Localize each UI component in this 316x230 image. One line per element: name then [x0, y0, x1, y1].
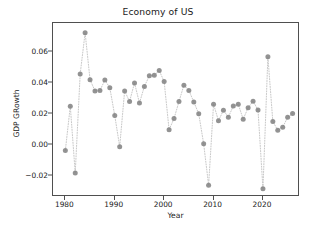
data-point: [92, 88, 97, 93]
data-point: [112, 113, 117, 118]
chart-figure: Economy of US GDP GRowth Year −0.020.000…: [0, 0, 316, 230]
data-point: [88, 77, 93, 82]
data-point: [191, 99, 196, 104]
data-point: [63, 148, 68, 153]
x-axis-tick-label: 1980: [55, 200, 74, 209]
data-point: [157, 68, 162, 73]
data-point: [107, 85, 112, 90]
data-point: [275, 128, 280, 133]
data-point: [211, 102, 216, 107]
y-axis-tick-label: −0.02: [8, 171, 48, 180]
data-point: [68, 104, 73, 109]
data-point: [162, 79, 167, 84]
data-point: [260, 186, 265, 191]
y-axis-tick-label: 0.00: [8, 139, 48, 148]
x-axis-tick-label: 2000: [154, 200, 173, 209]
y-axis-tick-label: 0.04: [8, 77, 48, 86]
data-point: [132, 80, 137, 85]
data-point: [196, 111, 201, 116]
data-point: [186, 88, 191, 93]
data-point: [142, 84, 147, 89]
data-point: [137, 101, 142, 106]
data-point: [78, 72, 83, 77]
data-point: [216, 118, 221, 123]
data-point: [102, 78, 107, 83]
x-axis-tick-label: 2010: [203, 200, 222, 209]
data-point: [181, 83, 186, 88]
data-point: [231, 103, 236, 108]
plot-svg: [53, 23, 300, 197]
data-point: [176, 99, 181, 104]
y-axis-tick-label: 0.06: [8, 46, 48, 55]
data-point: [201, 141, 206, 146]
plot-area: [52, 22, 299, 196]
data-point: [226, 115, 231, 120]
data-point: [83, 30, 88, 35]
y-axis-tick-label: 0.02: [8, 108, 48, 117]
data-point: [152, 73, 157, 78]
data-point: [270, 119, 275, 124]
data-point: [285, 115, 290, 120]
data-point: [206, 183, 211, 188]
data-point: [172, 116, 177, 121]
x-axis-tick-label: 2020: [253, 200, 272, 209]
data-point: [147, 73, 152, 78]
data-point: [221, 108, 226, 113]
data-point: [246, 105, 251, 110]
data-point: [117, 144, 122, 149]
data-point: [73, 170, 78, 175]
data-point: [251, 99, 256, 104]
data-point: [236, 102, 241, 107]
x-axis-tick-label: 1990: [104, 200, 123, 209]
x-axis-label: Year: [52, 211, 299, 220]
data-point: [241, 117, 246, 122]
data-point: [127, 99, 132, 104]
data-series-markers: [63, 30, 295, 191]
data-point: [280, 125, 285, 130]
data-point: [256, 108, 261, 113]
data-point: [122, 88, 127, 93]
chart-title: Economy of US: [0, 6, 316, 17]
data-point: [265, 54, 270, 59]
data-point: [167, 127, 172, 132]
data-point: [290, 111, 295, 116]
data-point: [97, 88, 102, 93]
